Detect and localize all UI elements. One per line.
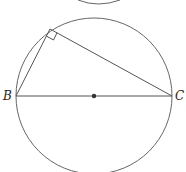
- segment-ac: [50, 29, 172, 96]
- top-arc-fragment: [78, 0, 120, 4]
- segment-ab: [16, 29, 50, 96]
- label-c: C: [175, 89, 184, 103]
- label-b: B: [2, 89, 12, 103]
- geometry-diagram: B C: [0, 0, 186, 172]
- center-point: [92, 94, 96, 98]
